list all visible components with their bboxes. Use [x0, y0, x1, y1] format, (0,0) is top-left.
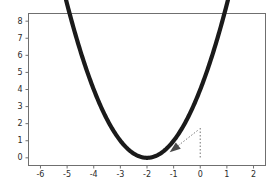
y-tick-label: 7: [17, 34, 22, 43]
plot-svg: -6-5-4-3-2-1012 012345678: [0, 0, 278, 194]
x-tick-label: -5: [63, 170, 71, 179]
x-tick-label: -1: [170, 170, 178, 179]
x-tick-label: 1: [224, 170, 229, 179]
x-tick-label: 2: [251, 170, 256, 179]
y-axis-tick-labels: 012345678: [17, 17, 22, 163]
axes-background: [28, 13, 266, 166]
x-tick-label: -2: [143, 170, 151, 179]
y-tick-label: 2: [17, 119, 22, 128]
y-tick-label: 0: [17, 153, 22, 162]
x-tick-label: -3: [116, 170, 124, 179]
x-tick-label: 0: [198, 170, 203, 179]
figure-canvas: -6-5-4-3-2-1012 012345678: [0, 0, 278, 194]
y-tick-label: 6: [17, 51, 22, 60]
y-tick-label: 8: [17, 17, 22, 26]
y-tick-label: 5: [17, 68, 22, 77]
y-tick-label: 3: [17, 102, 22, 111]
x-tick-label: -4: [90, 170, 98, 179]
y-tick-label: 4: [17, 85, 22, 94]
y-tick-label: 1: [17, 136, 22, 145]
x-tick-label: -6: [36, 170, 44, 179]
